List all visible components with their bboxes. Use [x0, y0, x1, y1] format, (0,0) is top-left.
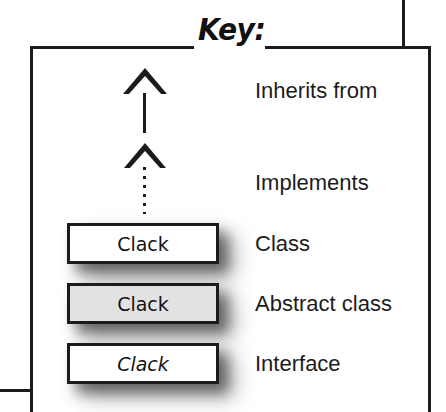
connector-line-top: [402, 0, 405, 49]
legend-label-inherits-from: Inherits from: [255, 78, 377, 104]
key-box-border-top-right: [265, 46, 431, 49]
interface-box-label: Clack: [117, 353, 169, 375]
legend-label-implements: Implements: [255, 170, 369, 196]
key-box-border-right: [428, 46, 431, 412]
class-box: Clack: [67, 223, 219, 264]
dotted-line-icon: [143, 167, 146, 214]
interface-box: Clack: [67, 343, 219, 384]
abstract-class-box: Clack: [67, 283, 219, 324]
legend-label-abstract-class: Abstract class: [255, 291, 392, 317]
class-box-label: Clack: [117, 233, 169, 255]
connector-line-left: [0, 389, 33, 392]
key-box-border-top-left: [30, 46, 194, 49]
abstract-class-box-label: Clack: [117, 293, 169, 315]
key-legend-diagram: Key: Clack Clack Clack Inherits from Imp…: [0, 0, 446, 412]
key-title: Key:: [198, 12, 264, 48]
legend-label-interface: Interface: [255, 351, 341, 377]
key-box-border-left: [30, 46, 33, 412]
legend-label-class: Class: [255, 231, 310, 257]
solid-line-icon: [143, 93, 146, 133]
